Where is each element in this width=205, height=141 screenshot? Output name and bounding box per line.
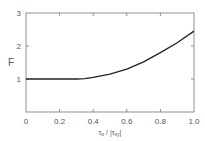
x-axis-ticks: 00.20.40.60.81.0 <box>24 13 200 126</box>
x-axis-label: τo / |τxy| <box>99 129 122 137</box>
x-tick-label: 0.4 <box>88 117 100 126</box>
plot-frame <box>26 13 194 112</box>
y-tick-label: 1 <box>17 75 22 84</box>
x-tick-label: 0.2 <box>54 117 66 126</box>
data-line <box>26 31 194 79</box>
y-tick-label: 2 <box>17 42 22 51</box>
x-tick-label: 0.6 <box>121 117 133 126</box>
y-tick-label: 3 <box>17 9 22 18</box>
y-axis-label: F <box>8 57 14 68</box>
x-tick-label: 0.8 <box>155 117 167 126</box>
x-tick-label: 0 <box>24 117 29 126</box>
y-axis-ticks: 123 <box>17 9 194 84</box>
line-chart: 123 00.20.40.60.81.0 F τo / |τxy| <box>0 0 205 141</box>
x-tick-label: 1.0 <box>188 117 200 126</box>
